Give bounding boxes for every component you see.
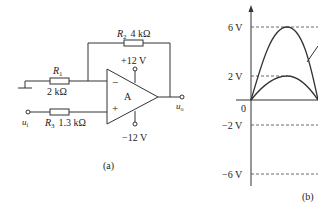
- vminus-label: −12 V: [122, 132, 148, 143]
- curve-input-2v: [251, 76, 318, 100]
- waveform-chart: 6 V 2 V 0 −2 V −6 V (b): [222, 5, 318, 203]
- input-terminal: [26, 110, 30, 114]
- y-label-0: 0: [241, 103, 246, 114]
- leader-line: [307, 46, 318, 62]
- y-label-2v: 2 V: [228, 71, 243, 82]
- y-axis-arrow-icon: [249, 5, 254, 12]
- vplus-label: +12 V: [121, 55, 147, 66]
- input-label: ui: [22, 117, 29, 128]
- output-terminal: [180, 95, 184, 99]
- figure: R24 kΩ R1 2 kΩ R31.3 kΩ − + A +12 V −12 …: [0, 0, 318, 205]
- noninverting-sign: +: [112, 102, 118, 114]
- resistor-r2: [124, 40, 143, 46]
- vplus-terminal: [133, 67, 137, 71]
- caption-a: (a): [103, 160, 114, 172]
- inverting-sign: −: [112, 76, 118, 88]
- output-label: uo: [176, 101, 184, 112]
- resistor-r3: [50, 109, 69, 115]
- r1-label: R1: [52, 65, 63, 78]
- opamp-label: A: [124, 91, 132, 102]
- y-label-neg2v: −2 V: [222, 120, 243, 131]
- r1-value: 2 kΩ: [47, 86, 67, 97]
- resistor-r1: [50, 78, 69, 84]
- r3-label: R31.3 kΩ: [44, 117, 86, 130]
- caption-b: (b): [302, 191, 314, 203]
- r2-label: R24 kΩ: [116, 28, 151, 41]
- vminus-terminal: [133, 122, 137, 126]
- y-label-6v: 6 V: [228, 22, 243, 33]
- ground-icon: [18, 81, 32, 88]
- circuit-diagram: R24 kΩ R1 2 kΩ R31.3 kΩ − + A +12 V −12 …: [18, 28, 184, 172]
- y-label-neg6v: −6 V: [222, 169, 243, 180]
